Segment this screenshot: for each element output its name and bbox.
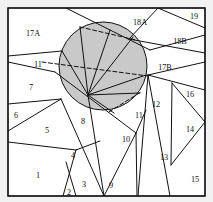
- label-11a: 11: [34, 60, 42, 69]
- label-4: 4: [71, 151, 75, 160]
- label-18A: 18A: [133, 18, 147, 27]
- label-14: 14: [186, 125, 194, 134]
- label-3: 3: [82, 180, 86, 189]
- label-8: 8: [81, 117, 85, 126]
- label-6: 6: [14, 111, 18, 120]
- label-2: 2: [67, 188, 71, 197]
- label-16: 16: [186, 90, 194, 99]
- label-19: 19: [190, 12, 198, 21]
- label-17B: 17B: [158, 63, 172, 72]
- label-12: 12: [152, 100, 160, 109]
- label-15: 15: [191, 175, 199, 184]
- label-18B: 18B: [173, 37, 187, 46]
- geometric-partition-figure: 17A18A1918B17B1171612116814510134115392: [0, 0, 213, 202]
- label-5: 5: [45, 126, 49, 135]
- diagram-canvas: 17A18A1918B17B1171612116814510134115392: [0, 0, 213, 202]
- label-9: 9: [109, 181, 113, 190]
- label-13: 13: [160, 153, 168, 162]
- label-11b: 11: [135, 111, 143, 120]
- label-10: 10: [122, 135, 130, 144]
- label-1: 1: [36, 171, 40, 180]
- label-7: 7: [29, 83, 33, 92]
- label-17A: 17A: [26, 29, 40, 38]
